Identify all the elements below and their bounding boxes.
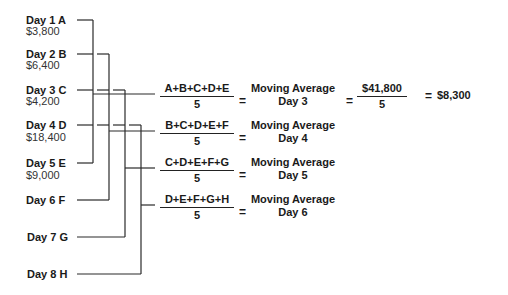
day-label: Day 5 E (26, 157, 66, 169)
formula-fraction: A+B+C+D+E 5 (160, 82, 234, 111)
equals-sign: = (239, 132, 246, 144)
day-label: Day 4 D (26, 119, 66, 131)
equals-sign: = (239, 95, 246, 107)
equals-sign: = (425, 90, 432, 102)
day-label: Day 7 G (27, 231, 68, 243)
moving-average-label: Moving Average Day 4 (250, 119, 336, 145)
formula-fraction: B+C+D+E+F 5 (160, 119, 234, 148)
formula-denominator: 5 (160, 208, 234, 222)
day-value: $3,800 (26, 25, 60, 37)
equals-sign: = (239, 169, 246, 181)
day-label: Day 6 F (26, 194, 65, 206)
moving-average-label: Moving Average Day 6 (250, 193, 336, 219)
moving-average-title: Moving Average (250, 156, 336, 169)
formula-denominator: 5 (160, 171, 234, 185)
moving-average-day: Day 5 (250, 169, 336, 182)
formula-denominator: 5 (160, 97, 234, 111)
moving-average-diagram: Day 1 A $3,800 Day 2 B $6,400 Day 3 C $4… (0, 0, 508, 295)
equals-sign: = (346, 95, 353, 107)
formula-numerator: A+B+C+D+E (160, 82, 234, 97)
formula-numerator: D+E+F+G+H (160, 193, 234, 208)
connector-lines (0, 0, 508, 295)
day-label: Day 8 H (27, 268, 67, 280)
calculation-numerator: $41,800 (357, 82, 407, 97)
moving-average-label: Moving Average Day 5 (250, 156, 336, 182)
day-value: $9,000 (26, 169, 60, 181)
equals-sign: = (239, 206, 246, 218)
calculation-denominator: 5 (357, 97, 407, 111)
moving-average-day: Day 3 (250, 95, 336, 108)
formula-numerator: B+C+D+E+F (160, 119, 234, 134)
moving-average-title: Moving Average (250, 193, 336, 206)
moving-average-title: Moving Average (250, 82, 336, 95)
day-value: $4,200 (26, 95, 60, 107)
formula-fraction: D+E+F+G+H 5 (160, 193, 234, 222)
day-value: $6,400 (26, 59, 60, 71)
moving-average-day: Day 4 (250, 132, 336, 145)
moving-average-title: Moving Average (250, 119, 336, 132)
formula-denominator: 5 (160, 134, 234, 148)
moving-average-label: Moving Average Day 3 (250, 82, 336, 108)
calculation-fraction: $41,800 5 (357, 82, 407, 111)
calculation-result: $8,300 (437, 89, 471, 101)
formula-numerator: C+D+E+F+G (160, 156, 234, 171)
day-value: $18,400 (26, 131, 66, 143)
moving-average-day: Day 6 (250, 206, 336, 219)
formula-fraction: C+D+E+F+G 5 (160, 156, 234, 185)
